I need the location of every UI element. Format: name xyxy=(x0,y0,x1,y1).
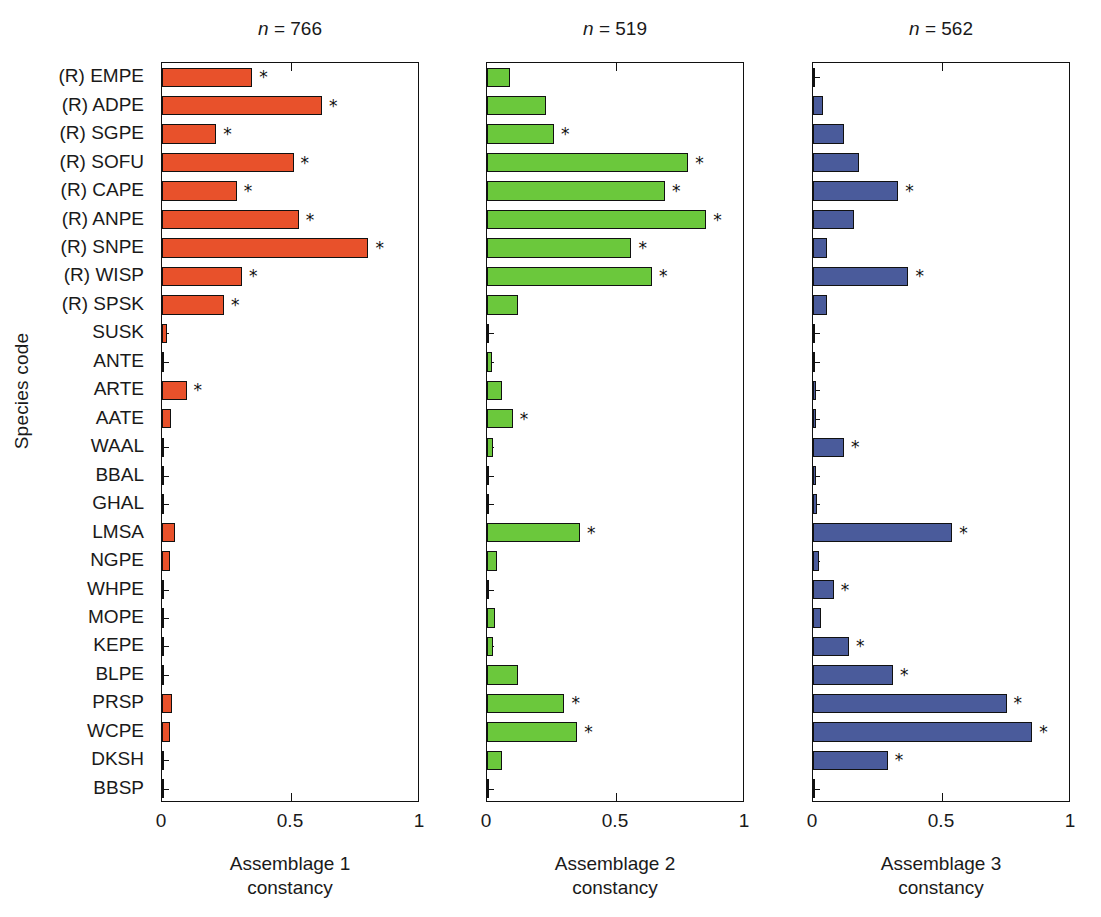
bar-row xyxy=(487,751,743,770)
bar-row: * xyxy=(487,267,743,286)
bar-bbal xyxy=(162,466,164,485)
bar-row xyxy=(162,466,418,485)
significance-star: * xyxy=(194,382,203,399)
bar-row xyxy=(487,466,743,485)
bar-ranpe xyxy=(487,210,706,229)
species-label-dksh: DKSH xyxy=(91,752,144,766)
bar-rsofu xyxy=(162,153,294,172)
panel-title-assemblage-3: n = 562 xyxy=(812,18,1070,40)
bar-arte xyxy=(813,381,816,400)
significance-star: * xyxy=(695,154,704,171)
x-tick-label: 1 xyxy=(1040,810,1100,832)
bar-row: * xyxy=(162,267,418,286)
x-axis-title-line1: Assemblage 2 xyxy=(486,852,744,876)
bar-row: * xyxy=(162,153,418,172)
bar-blpe xyxy=(487,665,518,684)
bar-bbsp xyxy=(487,779,489,798)
bar-row xyxy=(487,665,743,684)
species-label-ngpe: NGPE xyxy=(90,553,144,567)
bar-row xyxy=(813,324,1069,343)
bar-wcpe xyxy=(813,722,1032,741)
bar-row xyxy=(162,608,418,627)
bar-row xyxy=(487,295,743,314)
bar-susk xyxy=(813,324,815,343)
bar-waal xyxy=(162,438,164,457)
bar-row xyxy=(162,637,418,656)
bar-bbsp xyxy=(813,779,815,798)
bar-lmsa xyxy=(162,523,175,542)
significance-star: * xyxy=(659,268,668,285)
bar-mope xyxy=(487,608,495,627)
bar-row: * xyxy=(813,722,1069,741)
bar-row xyxy=(813,295,1069,314)
significance-star: * xyxy=(959,524,968,541)
x-axis-title-assemblage-1: Assemblage 1constancy xyxy=(161,852,419,901)
bar-row xyxy=(162,580,418,599)
bar-row: * xyxy=(487,523,743,542)
x-tick-label: 1 xyxy=(714,810,774,832)
significance-star: * xyxy=(1014,695,1023,712)
bar-rspsk xyxy=(162,295,224,314)
bar-row: * xyxy=(487,694,743,713)
bar-rcape xyxy=(813,181,898,200)
bar-row: * xyxy=(487,238,743,257)
bar-rsnpe xyxy=(813,238,827,257)
significance-star: * xyxy=(851,439,860,456)
bar-rempe xyxy=(162,68,252,87)
plot-area-assemblage-3: ********** xyxy=(812,62,1070,802)
bar-row: * xyxy=(813,665,1069,684)
bar-rspsk xyxy=(813,295,827,314)
species-label-kepe: KEPE xyxy=(93,638,144,652)
bar-dksh xyxy=(487,751,502,770)
bar-row xyxy=(487,551,743,570)
bar-ante xyxy=(162,352,164,371)
bar-row xyxy=(487,68,743,87)
species-label-blpe: BLPE xyxy=(95,667,144,681)
bar-row xyxy=(813,608,1069,627)
bar-prsp xyxy=(487,694,564,713)
species-label-rspsk: (R) SPSK xyxy=(62,297,144,311)
bar-lmsa xyxy=(813,523,952,542)
bar-ante xyxy=(487,352,492,371)
bar-row xyxy=(162,409,418,428)
bar-arte xyxy=(162,381,187,400)
bar-rwisp xyxy=(487,267,652,286)
bar-blpe xyxy=(162,665,164,684)
bar-row xyxy=(813,409,1069,428)
bar-row: * xyxy=(487,409,743,428)
bar-row: * xyxy=(813,694,1069,713)
bar-radpe xyxy=(813,96,823,115)
bar-row xyxy=(487,494,743,513)
bar-row: * xyxy=(813,181,1069,200)
bar-aate xyxy=(487,409,513,428)
bar-row: * xyxy=(487,210,743,229)
significance-star: * xyxy=(1039,723,1048,740)
bar-row: * xyxy=(162,381,418,400)
bar-rsgpe xyxy=(813,124,844,143)
bar-rsofu xyxy=(487,153,688,172)
bar-rsofu xyxy=(813,153,859,172)
bar-series-assemblage-1: ********** xyxy=(162,63,418,801)
bar-rspsk xyxy=(487,295,518,314)
bar-row xyxy=(813,779,1069,798)
bar-row xyxy=(813,551,1069,570)
bar-row: * xyxy=(162,181,418,200)
species-label-ghal: GHAL xyxy=(92,496,144,510)
species-label-waal: WAAL xyxy=(91,439,144,453)
bar-whpe xyxy=(487,580,489,599)
x-tick-label: 1 xyxy=(389,810,449,832)
bar-row xyxy=(162,494,418,513)
bar-aate xyxy=(162,409,171,428)
bar-row xyxy=(487,637,743,656)
significance-star: * xyxy=(375,239,384,256)
bar-row xyxy=(487,438,743,457)
significance-star: * xyxy=(841,581,850,598)
bar-whpe xyxy=(162,580,164,599)
panel-assemblage-2: n = 519**********00.51Assemblage 2consta… xyxy=(486,62,744,802)
bar-ngpe xyxy=(487,551,497,570)
significance-star: * xyxy=(584,723,593,740)
species-label-ranpe: (R) ANPE xyxy=(62,212,144,226)
bar-row xyxy=(162,324,418,343)
bar-susk xyxy=(162,324,167,343)
species-label-aate: AATE xyxy=(96,411,144,425)
